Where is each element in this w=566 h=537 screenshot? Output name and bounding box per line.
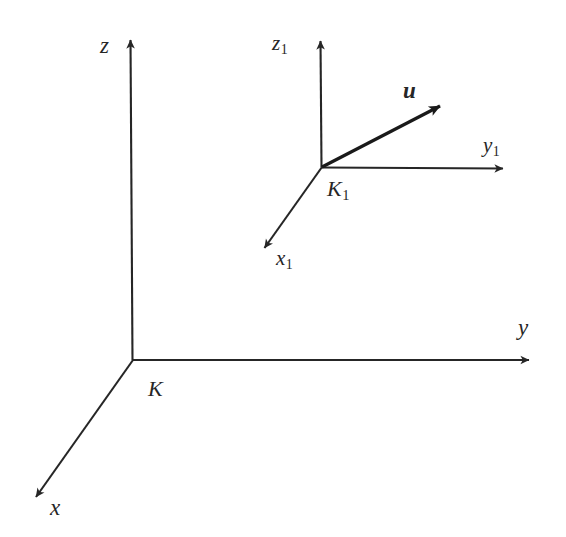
axis-line-z [131, 40, 133, 360]
origin-label-k: K [148, 378, 163, 400]
axis-line-x [36, 360, 133, 497]
axis-label-z: z [100, 34, 109, 57]
axis-label-y1: y1 [483, 135, 500, 159]
origin-label-k1-subscript: 1 [342, 187, 350, 203]
axis-label-x1: x1 [276, 248, 293, 272]
axis-label-y: y [518, 316, 528, 339]
vector-diagram-canvas: z y x K z1 y1 x1 K1 u [0, 0, 566, 537]
vector-u-arrow [322, 106, 440, 167]
axis-line-x1 [265, 167, 323, 248]
axis-label-x: x [50, 496, 60, 519]
axis-label-z1-subscript: 1 [280, 42, 287, 57]
origin-label-k1: K1 [327, 178, 349, 203]
axis-label-y1-subscript: 1 [492, 144, 499, 159]
axis-line-z1 [321, 41, 322, 167]
origin-label-k1-base: K [327, 176, 342, 201]
axis-line-y1 [322, 168, 503, 169]
axis-label-x1-subscript: 1 [285, 257, 292, 272]
axis-label-z1: z1 [272, 33, 288, 57]
axis-label-x1-base: x [276, 246, 285, 270]
axis-label-y1-base: y [483, 133, 492, 157]
secondary-frame-axes [265, 41, 504, 248]
vector-label-u: u [403, 79, 416, 102]
axis-label-z1-base: z [272, 31, 280, 55]
